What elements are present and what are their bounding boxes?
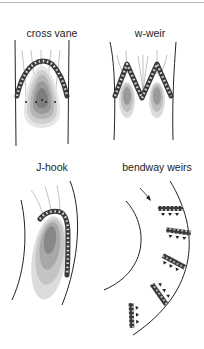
panel-j-hook xyxy=(12,181,78,305)
weir-2 xyxy=(165,227,191,240)
scour-pool-left xyxy=(119,82,135,118)
weir-5 xyxy=(129,303,140,328)
bank-right xyxy=(173,42,176,140)
flow-arrow xyxy=(140,188,151,201)
bank-inner xyxy=(104,201,141,290)
bank-outer xyxy=(133,181,189,335)
bank-left xyxy=(12,200,25,300)
weir-4 xyxy=(150,279,173,306)
panel-cross-vane xyxy=(15,40,69,146)
scour-pool xyxy=(24,66,60,128)
panel-w-weir xyxy=(110,42,176,140)
weir-1 xyxy=(158,206,183,216)
diagram-canvas xyxy=(0,0,204,349)
bank-left xyxy=(110,42,115,140)
weir-3 xyxy=(159,253,186,274)
scour-pool xyxy=(26,214,71,302)
panel-bendway-weirs xyxy=(104,181,191,335)
scour-pool-right xyxy=(149,82,165,118)
